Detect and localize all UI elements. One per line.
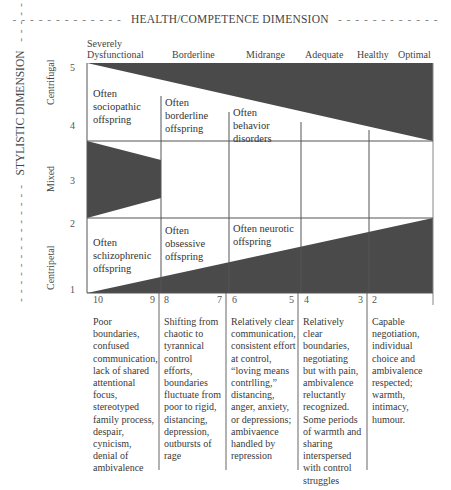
description-line: chaotic to <box>164 328 230 340</box>
description-line: or depressions; <box>231 414 301 426</box>
title-dashes-right: - - - - - - - - - - - - <box>338 13 439 25</box>
cell-neurotic: Often neurotic offspring <box>233 222 294 248</box>
cell-behavior-disorders: Often behavior disorders <box>233 106 272 145</box>
description-line: repression <box>231 450 301 462</box>
description-line: depression, <box>164 426 230 438</box>
description-line: Relatively clear <box>231 316 301 328</box>
cell-line: Often <box>165 96 208 109</box>
description-column-2: Shifting fromchaotic totyrannicalcontrol… <box>164 316 230 462</box>
description-line: individual <box>372 340 438 352</box>
description-line: Shifting from <box>164 316 230 328</box>
level-midrange: Midrange <box>246 49 285 60</box>
cell-line: offspring <box>93 113 141 126</box>
cell-line: schizophrenic <box>93 249 151 262</box>
description-line: Poor <box>93 316 163 328</box>
description-line: poor to rigid, <box>164 401 230 413</box>
description-line: reluctantly <box>303 389 369 401</box>
description-line: contrlling,” <box>231 377 301 389</box>
x-tick-9: 9 <box>150 294 155 305</box>
description-line: “loving means <box>231 365 301 377</box>
health-dimension-title: - - - - - - - - - - - - - HEALTH/COMPETE… <box>0 13 451 25</box>
description-line: clear <box>303 328 369 340</box>
description-line: Capable <box>372 316 438 328</box>
y-tick-5: 5 <box>70 62 75 73</box>
cell-line: Often <box>165 224 205 237</box>
stylistic-dimension-title: - - - - - - - - - - - - - - STYLISTIC DI… <box>14 0 26 302</box>
description-column-3: Relatively clearcommunication,consistent… <box>231 316 301 462</box>
level-borderline: Borderline <box>172 49 215 60</box>
description-line: recognized. <box>303 401 369 413</box>
description-line: attentional <box>93 377 163 389</box>
cell-line: obsessive <box>165 237 205 250</box>
description-line: struggles <box>303 475 369 487</box>
cell-line: Often <box>233 106 272 119</box>
description-line: boundaries, <box>303 340 369 352</box>
description-line: ambivalence <box>303 377 369 389</box>
description-line: focus, <box>93 389 163 401</box>
description-line: humour. <box>372 414 438 426</box>
description-line: fluctuate from <box>164 389 230 401</box>
cell-line: offspring <box>233 235 294 248</box>
x-tick-3: 3 <box>358 294 363 305</box>
description-line: of warmth and <box>303 426 369 438</box>
cell-line: offspring <box>165 250 205 263</box>
description-line: cynicism, <box>93 438 163 450</box>
x-tick-4: 4 <box>304 294 309 305</box>
side-dashes-top: - - - - - - - - - - - - - - <box>14 0 26 42</box>
cell-line: Often neurotic <box>233 222 294 235</box>
cell-borderline: Often borderline offspring <box>165 96 208 135</box>
description-line: efforts, <box>164 365 230 377</box>
description-line: Some periods <box>303 414 369 426</box>
band-centripetal: Centripetal <box>45 246 56 290</box>
side-dashes-bottom: - - - - - - - - - - - - - - <box>14 184 26 302</box>
cell-obsessive: Often obsessive offspring <box>165 224 205 263</box>
title-dashes-left: - - - - - - - - - - - - - <box>13 13 122 25</box>
description-line: Relatively <box>303 316 369 328</box>
title-text: HEALTH/COMPETENCE DIMENSION <box>131 13 329 25</box>
x-tick-8: 8 <box>164 294 169 305</box>
description-line: consistent effort <box>231 340 301 352</box>
cell-line: behavior <box>233 119 272 132</box>
description-line: at control, <box>231 353 301 365</box>
description-line: boundaries, <box>93 328 163 340</box>
description-line: lack of shared <box>93 365 163 377</box>
cell-line: offspring <box>93 262 151 275</box>
description-line: intimacy, <box>372 401 438 413</box>
cell-sociopathic: Often sociopathic offspring <box>93 87 141 126</box>
description-column-1: Poorboundaries,confusedcommunication,lac… <box>93 316 163 475</box>
level-optimal: Optimal <box>398 49 431 60</box>
level-adequate: Adequate <box>305 49 343 60</box>
description-line: family process, <box>93 414 163 426</box>
description-line: distancing, <box>164 414 230 426</box>
cell-line: borderline <box>165 109 208 122</box>
y-tick-2: 2 <box>70 218 75 229</box>
description-column-5: Capablenegotiation,individualchoice anda… <box>372 316 438 426</box>
description-line: warmth, <box>372 389 438 401</box>
mixed-wedge <box>87 141 161 218</box>
description-line: outbursts of <box>164 438 230 450</box>
description-line: respected; <box>372 377 438 389</box>
description-column-4: Relativelyclearboundaries,negotiatingbut… <box>303 316 369 487</box>
band-mixed: Mixed <box>45 166 56 192</box>
description-line: ambivaence <box>231 426 301 438</box>
description-line: but with pain, <box>303 365 369 377</box>
x-tick-6: 6 <box>232 294 237 305</box>
cell-line: sociopathic <box>93 100 141 113</box>
cell-line: Often <box>93 236 151 249</box>
description-line: negotiating <box>303 353 369 365</box>
description-line: distancing, <box>231 389 301 401</box>
level-label-line2: Dysfunctional <box>87 49 144 60</box>
x-tick-2: 2 <box>372 294 377 305</box>
description-line: choice and <box>372 353 438 365</box>
x-tick-10: 10 <box>93 294 103 305</box>
cell-line: disorders <box>233 132 272 145</box>
band-centrifugal: Centrifugal <box>45 59 56 105</box>
description-line: with control <box>303 462 369 474</box>
description-line: rage <box>164 450 230 462</box>
x-tick-5: 5 <box>289 294 294 305</box>
level-healthy: Healthy <box>357 49 389 60</box>
cell-line: offspring <box>165 122 208 135</box>
description-line: communication, <box>93 353 163 365</box>
side-title-text: STYLISTIC DIMENSION <box>14 50 26 175</box>
y-tick-4: 4 <box>70 120 75 131</box>
